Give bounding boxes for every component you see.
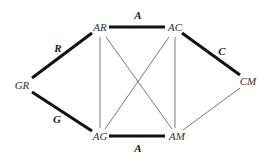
edge-gr-ar	[32, 33, 92, 78]
node-ac: AC	[168, 21, 182, 33]
edge-label: C	[218, 45, 225, 57]
edge-label: A	[134, 142, 141, 154]
edge-ac-cm	[182, 33, 240, 75]
node-cm: CM	[240, 75, 257, 87]
edge-label: A	[134, 9, 141, 21]
node-ar: AR	[93, 21, 106, 33]
edge-label: R	[54, 42, 61, 54]
edge-am-cm	[183, 88, 240, 130]
edge-ar-am	[106, 37, 172, 129]
graph-diagram	[0, 0, 271, 159]
node-gr: GR	[15, 79, 30, 91]
edge-ac-ag	[105, 37, 169, 129]
edge-gr-ag	[32, 92, 92, 131]
node-am: AM	[169, 130, 185, 142]
node-ag: AG	[93, 130, 108, 142]
edge-label: G	[53, 113, 61, 125]
